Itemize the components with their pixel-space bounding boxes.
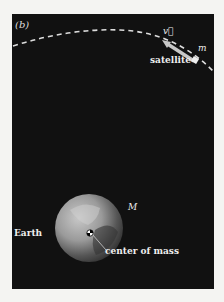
orbit-path bbox=[13, 30, 214, 72]
satellite-mass-label: m bbox=[198, 43, 207, 53]
satellite-label: satellite bbox=[150, 55, 191, 65]
panel-label: (b) bbox=[15, 19, 29, 30]
velocity-label: v⃗ bbox=[163, 26, 174, 36]
diagram-graphics bbox=[0, 0, 224, 302]
center-of-mass-label: center of mass bbox=[105, 246, 179, 256]
earth-label: Earth bbox=[14, 228, 42, 238]
earth-mass-label: M bbox=[128, 202, 137, 212]
